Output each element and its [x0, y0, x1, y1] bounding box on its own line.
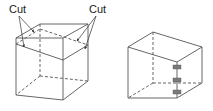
diagram-drawing: [0, 0, 213, 111]
cube-left: [16, 24, 88, 100]
hinge-icon: [173, 78, 181, 82]
box-right: [128, 32, 202, 98]
diagram: Cut Cut: [0, 0, 213, 111]
hinge-icon: [173, 90, 181, 94]
hinge-icon: [173, 65, 181, 69]
